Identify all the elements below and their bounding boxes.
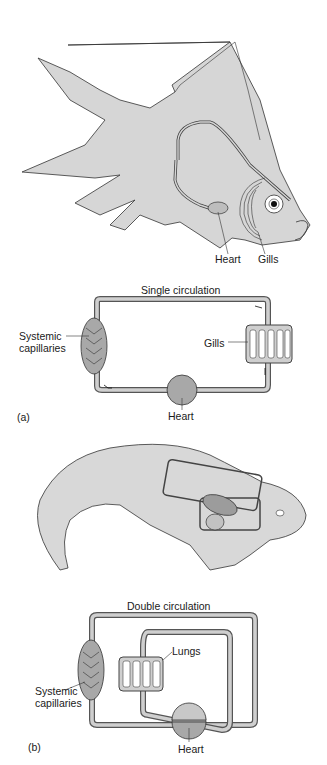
single-circulation-title: Single circulation bbox=[141, 284, 220, 296]
lizard-heart bbox=[206, 514, 224, 530]
double-circulation-schematic bbox=[65, 615, 255, 742]
fish-illustration bbox=[22, 42, 310, 254]
systemic-capillaries-label-a-line1: Systemic bbox=[19, 330, 62, 342]
lungs-label: Lungs bbox=[172, 645, 201, 657]
fish-heart-label: Heart bbox=[215, 253, 241, 265]
double-circulation-title: Double circulation bbox=[127, 600, 210, 612]
systemic-capillaries-label-a-line2: capillaries bbox=[19, 342, 66, 354]
heart-label-b: Heart bbox=[178, 743, 204, 755]
systemic-capillaries-b bbox=[78, 640, 104, 700]
circulation-diagram bbox=[0, 0, 327, 765]
fish-gills-label: Gills bbox=[258, 253, 278, 265]
single-circulation-schematic bbox=[66, 299, 292, 410]
panel-b-letter: (b) bbox=[28, 741, 41, 753]
systemic-capillaries-a bbox=[81, 318, 107, 374]
panel-a-letter: (a) bbox=[17, 411, 30, 423]
lizard-illustration bbox=[38, 444, 307, 570]
gills-label-a: Gills bbox=[204, 337, 224, 349]
systemic-capillaries-label-b-line1: Systemic bbox=[35, 685, 78, 697]
systemic-capillaries-label-b-line2: capillaries bbox=[35, 697, 82, 709]
heart-label-a: Heart bbox=[168, 410, 194, 422]
